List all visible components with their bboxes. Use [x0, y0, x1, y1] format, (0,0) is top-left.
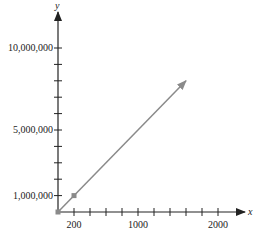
y-tick-label: 10,000,000 [8, 42, 53, 53]
x-tick-label: 2000 [208, 219, 228, 230]
x-tick-label: 1000 [128, 219, 148, 230]
y-tick-label: 1,000,000 [13, 190, 53, 201]
data-line [58, 81, 186, 212]
chart: x y 200 1000 2000 1,000,000 5,000,000 10… [0, 0, 258, 246]
y-axis-label: y [54, 0, 60, 11]
data-point [72, 193, 77, 198]
x-tick-label: 200 [67, 219, 82, 230]
x-tick-labels: 200 1000 2000 [67, 219, 229, 230]
y-tick-label: 5,000,000 [13, 124, 53, 135]
y-tick-labels: 1,000,000 5,000,000 10,000,000 [8, 42, 53, 201]
data-point [56, 210, 61, 215]
data-series [56, 81, 187, 215]
x-axis-label: x [247, 206, 253, 217]
